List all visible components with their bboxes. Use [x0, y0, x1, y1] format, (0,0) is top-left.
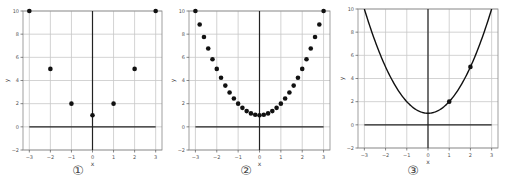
y-tick-label: −2 [347, 145, 354, 151]
x-tick-label: 3 [322, 154, 325, 160]
data-point [223, 83, 228, 88]
data-point [283, 96, 288, 101]
y-tick-label: 10 [348, 6, 354, 12]
data-point [240, 106, 245, 111]
data-point [300, 67, 305, 72]
chart-1-scatter-sparse: −3−2−10123−20246810xy [3, 8, 162, 167]
x-tick-label: 3 [154, 154, 157, 160]
data-point [27, 9, 32, 14]
x-tick-label: 2 [469, 152, 472, 158]
data-point [197, 22, 202, 27]
x-tick-label: −1 [234, 154, 241, 160]
data-point [111, 101, 116, 106]
y-tick-label: 0 [351, 122, 354, 128]
data-point [261, 112, 266, 117]
data-point [257, 113, 262, 118]
y-tick-label: 10 [13, 8, 19, 14]
y-tick-label: −2 [12, 147, 19, 153]
y-axis-label: y [3, 78, 11, 82]
data-point [132, 67, 137, 72]
x-tick-label: 3 [490, 152, 493, 158]
x-tick-label: 1 [112, 154, 115, 160]
y-tick-label: 8 [351, 29, 354, 35]
y-tick-label: −2 [178, 147, 185, 153]
x-tick-label: −2 [382, 152, 389, 158]
data-point [321, 9, 326, 14]
y-axis-label: y [169, 78, 177, 82]
y-tick-label: 4 [351, 75, 354, 81]
data-point [202, 35, 207, 40]
chart-3-parabola-curve: −3−2−10123−20246810xy [338, 6, 498, 165]
x-tick-label: −2 [47, 154, 54, 160]
data-point [313, 35, 318, 40]
data-point [193, 9, 198, 14]
data-point [249, 111, 254, 116]
y-tick-label: 6 [182, 54, 185, 60]
y-tick-label: 0 [182, 124, 185, 130]
x-tick-label: −3 [26, 154, 33, 160]
chart-3-caption: ③ [398, 163, 428, 178]
y-axis-label: y [338, 76, 346, 80]
data-point [236, 101, 241, 106]
data-point [90, 113, 95, 118]
chart-1-caption: ① [63, 163, 93, 178]
x-tick-label: −3 [192, 154, 199, 160]
x-tick-label: −3 [361, 152, 368, 158]
data-point [279, 101, 284, 106]
data-point [227, 90, 232, 95]
data-point [308, 46, 313, 51]
data-point [219, 75, 224, 80]
y-tick-label: 8 [182, 31, 185, 37]
data-point [296, 75, 301, 80]
data-point [153, 9, 158, 14]
x-tick-label: −2 [213, 154, 220, 160]
chart-2-scatter-dense: −3−2−10123−20246810xy [169, 8, 330, 167]
data-point [232, 96, 237, 101]
data-point [253, 112, 258, 117]
x-tick-label: 2 [301, 154, 304, 160]
y-tick-label: 4 [182, 77, 185, 83]
data-point [468, 65, 473, 70]
x-tick-label: 1 [279, 154, 282, 160]
data-point [317, 22, 322, 27]
data-point [266, 111, 271, 116]
data-point [48, 67, 53, 72]
data-point [447, 99, 452, 104]
y-tick-label: 6 [16, 54, 19, 60]
x-tick-label: 2 [133, 154, 136, 160]
data-point [206, 46, 211, 51]
data-point [210, 57, 215, 62]
x-tick-label: −1 [68, 154, 75, 160]
data-point [69, 101, 74, 106]
y-tick-label: 2 [182, 100, 185, 106]
x-tick-label: −1 [403, 152, 410, 158]
y-tick-label: 8 [16, 31, 19, 37]
data-point [244, 109, 249, 114]
data-point [291, 83, 296, 88]
chart-2-caption: ② [231, 163, 261, 178]
data-point [214, 67, 219, 72]
y-tick-label: 2 [351, 98, 354, 104]
data-point [274, 106, 279, 111]
y-tick-label: 10 [179, 8, 185, 14]
y-tick-label: 6 [351, 52, 354, 58]
data-point [287, 90, 292, 95]
y-tick-label: 0 [16, 124, 19, 130]
x-tick-label: 1 [448, 152, 451, 158]
data-point [304, 57, 309, 62]
y-tick-label: 4 [16, 77, 19, 83]
data-point [270, 109, 275, 114]
y-tick-label: 2 [16, 100, 19, 106]
